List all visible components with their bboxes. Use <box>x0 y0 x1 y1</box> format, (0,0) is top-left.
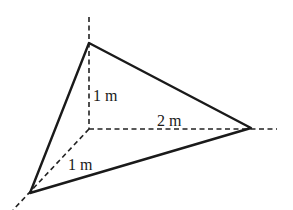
tetrahedron-diagram: 1 m 2 m 1 m <box>0 0 293 210</box>
diagonal-length-label: 1 m <box>68 156 93 173</box>
vertical-length-label: 1 m <box>93 87 118 104</box>
horizontal-length-label: 2 m <box>157 112 182 129</box>
triangle-face <box>30 43 251 193</box>
